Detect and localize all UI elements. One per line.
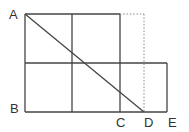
label-b: B bbox=[10, 101, 19, 116]
label-c: C bbox=[116, 115, 125, 130]
solid-lines bbox=[25, 14, 167, 112]
label-e: E bbox=[168, 115, 177, 130]
geometry-diagram: A B C D E bbox=[0, 0, 189, 132]
label-d: D bbox=[144, 115, 153, 130]
label-a: A bbox=[9, 7, 18, 22]
